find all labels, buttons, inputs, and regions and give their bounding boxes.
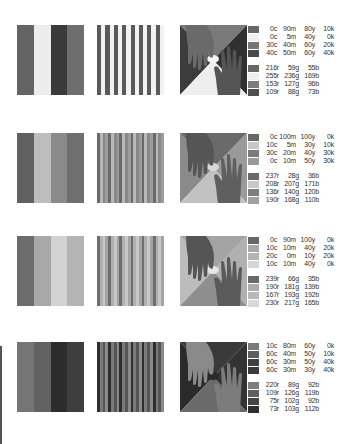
cmyk-legend-row: 30c 40m 60y 20k <box>248 41 355 49</box>
rgb-legend-row: 208r 207g 171b <box>248 180 355 188</box>
cmyk-values: 30c 20m 40y 30k <box>263 149 334 157</box>
cyan-value: 0c <box>263 157 277 165</box>
rgb-legend-row: 75r 102g 92b <box>248 397 355 405</box>
yellow-value: 40y <box>296 33 315 41</box>
cmyk-values: 10c 10m 40y 0k <box>263 260 334 268</box>
color-swatch <box>248 142 259 149</box>
green-value: 193g <box>279 291 299 299</box>
legend-gap <box>248 374 355 381</box>
cmyk-values: 60c 30m 30y 40k <box>263 366 334 374</box>
red-value: 73r <box>263 405 279 413</box>
color-legend: 0c 90m 100y 0k 10c 10m 40y 20k 20c 0m 10… <box>248 236 355 307</box>
rgb-values: 153r 127g 96b <box>263 80 319 88</box>
color-swatch <box>248 300 259 307</box>
red-value: 167r <box>263 291 279 299</box>
rgb-values: 230r 217g 165b <box>263 299 319 307</box>
magenta-value: 90m <box>277 236 296 244</box>
color-band <box>67 25 84 95</box>
color-swatch <box>248 158 259 165</box>
cmyk-values: 10c 10m 40y 20k <box>263 244 334 252</box>
color-band <box>67 236 84 306</box>
magenta-value: 50m <box>277 49 296 57</box>
color-swatch <box>248 50 259 57</box>
color-swatch <box>248 276 259 283</box>
color-swatch <box>248 150 259 157</box>
color-swatch <box>248 42 259 49</box>
magenta-value: 0m <box>277 252 296 260</box>
cyan-value: 10c <box>263 260 277 268</box>
cmyk-legend-row: 10c 10m 40y 0k <box>248 260 355 268</box>
color-band <box>51 133 68 203</box>
red-value: 153r <box>263 80 279 88</box>
hands-illustration <box>180 236 247 306</box>
color-legend: 0c 100m 100y 0k 10c 5m 30y 10k 30c 20m 4… <box>248 133 355 204</box>
cmyk-legend-row: 0c 5m 40y 0k <box>248 33 355 41</box>
color-band <box>67 342 84 412</box>
black-value: 40k <box>315 358 334 366</box>
rgb-legend-row: 73r 103g 112b <box>248 405 355 413</box>
legend-gap <box>248 165 355 172</box>
rgb-values: 239r 66g 35b <box>263 275 319 283</box>
yellow-value: 60y <box>296 41 315 49</box>
cmyk-legend-row: 0c 10m 50y 30k <box>248 157 355 165</box>
cmyk-values: 20c 0m 10y 20k <box>263 252 334 260</box>
black-value: 40k <box>315 366 334 374</box>
cmyk-legend-row: 0c 90m 80y 10k <box>248 25 355 33</box>
color-study-row: 10c 80m 60y 0k 60c 40m 50y 10k 60c 30m 5… <box>0 342 355 414</box>
green-value: 66g <box>279 275 299 283</box>
rgb-values: 190r 168g 110b <box>263 196 319 204</box>
magenta-value: 90m <box>277 25 296 33</box>
green-value: 103g <box>279 405 299 413</box>
red-value: 75r <box>263 397 279 405</box>
cyan-value: 60c <box>263 358 277 366</box>
blue-value: 119b <box>299 389 319 397</box>
color-swatch <box>248 292 259 299</box>
magenta-value: 80m <box>277 342 296 350</box>
color-swatch <box>248 181 259 188</box>
cmyk-values: 0c 90m 80y 10k <box>263 25 334 33</box>
black-value: 0k <box>315 236 334 244</box>
magenta-value: 100m <box>277 133 296 141</box>
color-swatch <box>248 406 259 413</box>
red-value: 237r <box>263 172 279 180</box>
rgb-values: 255r 236g 169b <box>263 72 319 80</box>
cmyk-values: 60c 40m 50y 10k <box>263 350 334 358</box>
color-swatch <box>248 89 259 96</box>
magenta-value: 30m <box>277 366 296 374</box>
red-value: 190r <box>263 283 279 291</box>
magenta-value: 40m <box>277 350 296 358</box>
color-bands-panel <box>17 342 84 412</box>
rgb-legend-row: 216r 59g 55b <box>248 64 355 72</box>
color-swatch <box>248 65 259 72</box>
cyan-value: 0c <box>263 25 277 33</box>
green-value: 28g <box>279 172 299 180</box>
magenta-value: 5m <box>277 141 296 149</box>
color-band <box>34 133 51 203</box>
color-swatch <box>248 390 259 397</box>
rgb-legend-row: 255r 236g 169b <box>248 72 355 80</box>
color-stripes-panel <box>97 342 164 412</box>
cyan-value: 60c <box>263 350 277 358</box>
color-band <box>67 133 84 203</box>
blue-value: 55b <box>299 64 319 72</box>
black-value: 0k <box>315 33 334 41</box>
rgb-legend-row: 109r 126g 119b <box>248 389 355 397</box>
green-value: 126g <box>279 389 299 397</box>
magenta-value: 10m <box>277 157 296 165</box>
black-value: 30k <box>315 149 334 157</box>
color-swatch <box>248 367 259 374</box>
cmyk-values: 60c 30m 50y 40k <box>263 358 334 366</box>
rgb-values: 109r 126g 119b <box>263 389 319 397</box>
color-swatch <box>248 134 259 141</box>
stripe-pattern <box>97 236 164 306</box>
color-band <box>34 342 51 412</box>
yellow-value: 30y <box>296 141 315 149</box>
cmyk-values: 30c 40m 60y 20k <box>263 41 334 49</box>
blue-value: 165b <box>299 299 319 307</box>
cmyk-legend-row: 60c 30m 50y 40k <box>248 358 355 366</box>
blue-value: 171b <box>299 180 319 188</box>
cmyk-legend-row: 20c 0m 10y 20k <box>248 252 355 260</box>
yellow-value: 10y <box>296 252 315 260</box>
rgb-legend-row: 109r 88g 73b <box>248 88 355 96</box>
cmyk-legend-row: 40c 50m 60y 40k <box>248 49 355 57</box>
